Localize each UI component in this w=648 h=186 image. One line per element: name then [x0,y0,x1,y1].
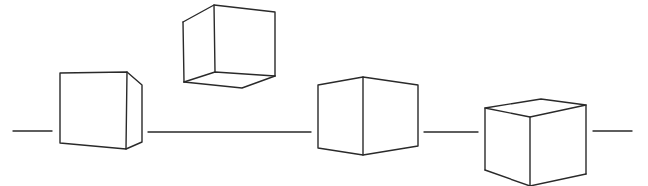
cube-2 [183,5,275,88]
cube-3 [318,77,418,155]
cube-1 [60,72,142,149]
cube-diagram [0,0,648,186]
cube-4 [485,99,586,186]
connector-lines [13,131,632,132]
